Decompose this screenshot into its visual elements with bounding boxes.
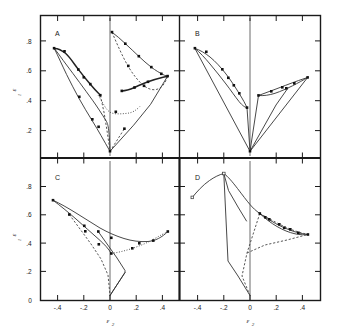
panel-c-label: C — [55, 174, 60, 181]
y-tick-bot-02: .2 — [26, 268, 32, 275]
curve-d-dash-diagonal-main — [260, 214, 308, 235]
y-tick-bot-08: .8 — [26, 183, 32, 190]
y-tick-top-06: .6 — [26, 67, 32, 74]
panel-c-markers — [52, 199, 169, 255]
panel-a: A — [41, 16, 180, 159]
curve-a-left-upper — [54, 48, 100, 95]
curve-a-right-descending — [112, 32, 168, 76]
y-axis-tick-labels-bottom: .8 .6 .4 .2 0 — [26, 183, 32, 304]
panel-d: D — [180, 158, 321, 301]
y-tick-top-02: .2 — [26, 127, 32, 134]
y-tick-bot-06: .6 — [26, 211, 32, 218]
curve-d-parallelogram — [224, 174, 250, 296]
x-tick-right-m04: -.4 — [194, 304, 202, 311]
curve-d-dash-inner — [242, 214, 260, 296]
curve-d-right-lower — [260, 214, 308, 235]
panel-a-y-ticks — [41, 41, 47, 131]
x-axis-tick-labels-right: -.4 -.2 0 .2 .4 — [194, 304, 306, 311]
curve-b-left-straight — [195, 48, 250, 151]
x-axis-title-left-sub: 2 — [112, 322, 115, 327]
y-axis-title-bottom-sub: 1 — [17, 239, 22, 242]
panel-b-markers — [194, 47, 309, 153]
x-tick-left-m04: -.4 — [54, 304, 62, 311]
panel-a-label: A — [55, 30, 60, 37]
y-axis-title-bottom: ε 1 — [10, 233, 22, 241]
curve-c-spike-outline — [98, 232, 125, 296]
panel-b-x-ticks-top — [198, 16, 303, 22]
x-tick-left-p02: .2 — [133, 304, 139, 311]
curve-a-origin-dash-right — [110, 129, 124, 152]
y-tick-bot-zero: 0 — [28, 297, 32, 304]
curve-c-dashed-diagonal — [69, 215, 110, 296]
curve-d-right-upper — [260, 214, 308, 235]
y-axis-tick-labels-top: .8 .6 .4 .2 — [26, 38, 32, 135]
x-axis-title-left: ε 2 — [107, 317, 115, 327]
x-tick-left-0: 0 — [108, 304, 112, 311]
curve-a-right-mid — [122, 76, 168, 91]
x-axis-title-right-text: ε — [247, 317, 250, 325]
panel-d-label: D — [195, 174, 200, 181]
figure-root: A — [0, 0, 342, 335]
x-tick-right-0: 0 — [248, 304, 252, 311]
x-axis-title-right-sub: 2 — [252, 322, 255, 327]
x-axis-tick-labels-left: -.4 -.2 0 .2 .4 — [54, 304, 166, 311]
curve-d-dash-long — [247, 235, 308, 254]
x-tick-right-p02: .2 — [273, 304, 279, 311]
y-axis-title-top: ε 1 — [10, 88, 22, 96]
panel-b-label: B — [195, 30, 200, 37]
panel-a-y-ticks-inner-right — [174, 41, 180, 131]
y-tick-top-08: .8 — [26, 38, 32, 45]
y-axis-title-top-sub: 1 — [17, 94, 22, 97]
panel-d-markers — [259, 212, 310, 236]
y-tick-bot-04: .4 — [26, 240, 32, 247]
y-tick-top-04: .4 — [26, 97, 32, 104]
x-tick-right-m02: -.2 — [220, 304, 228, 311]
x-axis-title-right: ε 2 — [247, 317, 255, 327]
panel-a-x-ticks-top — [58, 16, 163, 22]
panel-a-markers — [53, 31, 169, 153]
curve-b-origin-to-right — [250, 78, 308, 152]
x-tick-right-p04: .4 — [300, 304, 306, 311]
x-tick-left-p04: .4 — [160, 304, 166, 311]
curve-a-right-dashed-loop — [112, 32, 168, 90]
strain-path-figure: A — [0, 0, 342, 335]
x-tick-left-m02: -.2 — [80, 304, 88, 311]
curve-c-spike-base — [110, 273, 125, 296]
panel-c: C — [41, 158, 180, 301]
panel-b: B — [180, 16, 321, 159]
curve-b-lower-arc — [195, 48, 247, 107]
curve-a-valley-dotted — [98, 95, 140, 114]
x-axis-title-left-text: ε — [107, 317, 110, 325]
curve-b-origin-branch — [250, 88, 288, 151]
y-axis-title-bottom-text: ε — [10, 233, 18, 236]
curve-c-lower — [53, 200, 111, 253]
y-axis-title-top-text: ε — [10, 88, 18, 91]
